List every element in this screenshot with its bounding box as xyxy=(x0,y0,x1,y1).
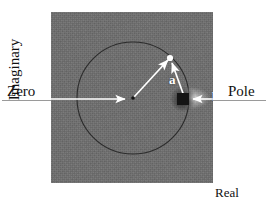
zero-marker xyxy=(131,96,135,100)
pole-marker xyxy=(177,93,189,105)
pole-label: Pole xyxy=(228,84,255,99)
vector-a-arrow xyxy=(134,60,168,97)
z-plane-graphics xyxy=(51,12,213,183)
vector-b-label: b xyxy=(212,90,213,103)
figure-root: a b ejωt Zero Pole Real Imaginary xyxy=(0,0,268,206)
z-plane-panel: a b ejωt xyxy=(51,12,213,183)
real-axis-label: Real xyxy=(215,186,239,199)
frequency-point-marker xyxy=(167,55,173,61)
imaginary-axis-label: Imaginary xyxy=(7,39,22,101)
vector-a-label: a xyxy=(169,73,176,86)
